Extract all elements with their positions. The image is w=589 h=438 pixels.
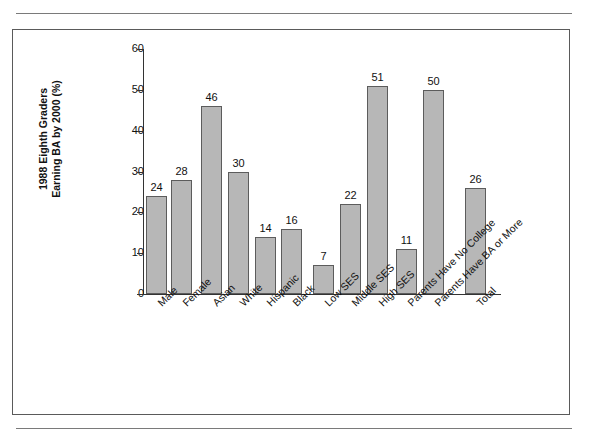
bar: [201, 106, 222, 294]
horizontal-rule-bottom: [16, 428, 572, 429]
horizontal-rule-top: [16, 13, 572, 14]
y-tick-mark: [137, 172, 144, 173]
y-tick-mark: [137, 49, 144, 50]
y-tick-label: 40: [118, 124, 144, 136]
y-tick-mark: [137, 253, 144, 254]
bar-value-label: 46: [193, 91, 230, 103]
bar-value-label: 51: [359, 71, 396, 83]
bar-value-label: 26: [457, 173, 494, 185]
y-tick-mark: [137, 131, 144, 132]
bar-value-label: 30: [220, 157, 257, 169]
y-tick-mark: [137, 294, 144, 295]
y-tick-mark: [137, 90, 144, 91]
y-tick-mark: [137, 212, 144, 213]
bar-chart-plot: 1988 Eighth Graders Earning BA by 2000 (…: [13, 30, 571, 416]
clipped-header-text: , , , , g p p: [60, 0, 530, 2]
y-tick-label: 20: [118, 205, 144, 217]
bar: [171, 180, 192, 294]
y-tick-label: 50: [118, 83, 144, 95]
bar-value-label: 28: [163, 165, 200, 177]
y-tick-label: 60: [118, 42, 144, 54]
bar-value-label: 7: [305, 250, 342, 262]
bar-value-label: 11: [388, 234, 425, 246]
bar-value-label: 16: [273, 214, 310, 226]
bar-value-label: 22: [332, 189, 369, 201]
bar: [228, 172, 249, 294]
y-tick-label: 30: [118, 165, 144, 177]
bar: [146, 196, 167, 294]
y-tick-label: 0: [118, 287, 144, 299]
bar-value-label: 50: [415, 75, 452, 87]
y-axis-title: 1988 Eighth Graders Earning BA by 2000 (…: [37, 44, 63, 234]
y-tick-label: 10: [118, 246, 144, 258]
bar-value-label: 24: [138, 181, 175, 193]
figure-frame: 1988 Eighth Graders Earning BA by 2000 (…: [12, 29, 570, 415]
